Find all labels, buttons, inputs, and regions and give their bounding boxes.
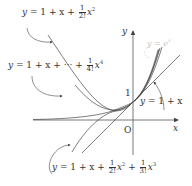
y-axis-label: y xyxy=(122,27,127,36)
label-linear: y = 1 + x xyxy=(140,97,182,106)
origin-label: O xyxy=(124,126,131,135)
label-exponential: y = ex xyxy=(147,38,171,48)
label-quartic: y = 1 + x + ··· + 14!x4 xyxy=(8,58,103,73)
label-cubic: y = 1 + x + 12!x2 + 13!x3 xyxy=(52,160,156,175)
pointer-quartic xyxy=(32,76,62,96)
label-quadratic: y = 1 + x + 12!x2 xyxy=(22,5,95,20)
y-intercept-label: 1 xyxy=(125,89,131,98)
x-axis-label: x xyxy=(173,124,178,133)
plot-canvas xyxy=(0,0,192,186)
taylor-series-diagram: y x O 1 y = 1 + x y = 1 + x + 12!x2 y = … xyxy=(0,0,192,186)
pointer-exponential xyxy=(144,47,150,58)
